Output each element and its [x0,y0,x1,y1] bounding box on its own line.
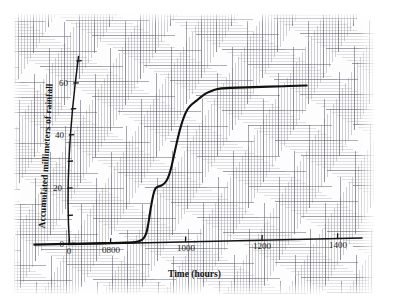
x-tick-label-1200: 1200 [244,241,280,251]
x-tick-label-0800: 0800 [93,245,129,255]
y-tick-label-0: 0 [46,239,64,249]
x-axis-title: Time (hours) [168,269,221,279]
plot-area [0,0,398,308]
x-tick-label-1400: 1400 [320,240,356,250]
rainfall-accumulation-figure: 0 0800 1000 1200 1400 0 20 40 60 Time (h… [0,0,398,308]
y-axis-line [68,57,78,245]
x-tick-label-1000: 1000 [168,243,204,253]
